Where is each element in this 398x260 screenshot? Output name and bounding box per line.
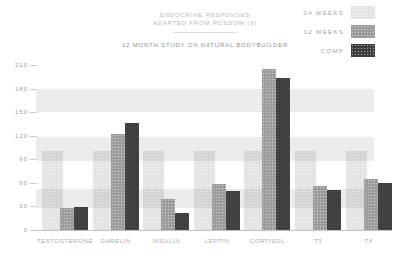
bar-comp	[276, 78, 290, 229]
y-tick-label: 120	[6, 133, 28, 139]
bar-comp	[378, 183, 392, 230]
bar-group	[42, 0, 88, 230]
bar-12-weeks	[212, 184, 226, 229]
bar-comp	[175, 213, 189, 229]
bar-12-weeks	[161, 199, 175, 230]
x-category-label: TESTOSTERONE	[37, 238, 93, 244]
y-tick-label: 150	[6, 109, 28, 115]
bar-comp	[226, 191, 240, 229]
y-tick-label: 180	[6, 86, 28, 92]
y-tick-label: 210	[6, 62, 28, 68]
bar-comp	[125, 123, 139, 230]
y-tick-mark	[30, 65, 37, 66]
y-tick-mark	[30, 89, 37, 90]
bar-comp	[74, 207, 88, 230]
endocrine-bar-chart: ENDOCRINE RESPONSES ADAPTED FROM ROSSOW …	[0, 0, 398, 260]
bar-12-weeks	[262, 69, 276, 230]
bar-12-weeks	[60, 208, 74, 229]
bar-group	[244, 0, 290, 230]
bar-comp	[327, 190, 341, 230]
bar-group	[194, 0, 240, 230]
x-category-label: T4	[364, 238, 372, 244]
bar-group	[346, 0, 392, 230]
y-tick-mark	[30, 112, 37, 113]
bar-group	[295, 0, 341, 230]
x-axis-baseline	[36, 230, 392, 231]
y-tick-mark	[30, 206, 37, 207]
x-category-label: CORTISOL	[250, 238, 285, 244]
x-category-label: LEPTIN	[204, 238, 229, 244]
y-tick-label: 60	[6, 180, 28, 186]
x-category-label: INSULIN	[152, 238, 180, 244]
bar-12-weeks	[111, 134, 125, 230]
y-tick-label: 90	[6, 156, 28, 162]
bar-group	[93, 0, 139, 230]
x-category-label: T3	[314, 238, 322, 244]
y-tick-mark	[30, 183, 37, 184]
y-tick-label: 0	[6, 227, 28, 233]
y-tick-mark	[30, 159, 37, 160]
bar-group	[143, 0, 189, 230]
x-category-label: GHRELIN	[100, 238, 131, 244]
y-tick-label: 30	[6, 203, 28, 209]
bar-12-weeks	[364, 179, 378, 229]
y-tick-mark	[30, 136, 37, 137]
bar-12-weeks	[313, 186, 327, 230]
